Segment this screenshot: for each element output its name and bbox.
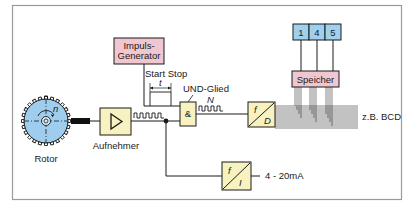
rotor-label: Rotor <box>34 153 57 164</box>
rotor-speed-symbol: n <box>53 103 58 114</box>
and-symbol: & <box>185 108 192 119</box>
fi-i: I <box>239 177 242 188</box>
und-glied-block: & <box>180 102 196 126</box>
digital-display: 1 4 5 <box>293 24 341 40</box>
n-label: N <box>207 94 214 105</box>
t-label: t <box>159 77 162 88</box>
block-diagram: n Rotor Aufnehmer Impuls- Generator Star… <box>0 0 412 211</box>
display-digit-3: 5 <box>330 27 335 38</box>
speicher-block: Speicher <box>292 71 339 87</box>
speicher-label: Speicher <box>297 74 335 85</box>
start-stop-label: Start Stop <box>145 68 187 79</box>
impuls-generator-label-2: Generator <box>118 50 161 61</box>
f-to-i-converter: f I <box>222 162 251 190</box>
impuls-generator-label-1: Impuls- <box>123 40 154 51</box>
und-glied-label: UND-Glied <box>183 83 229 94</box>
display-digit-1: 1 <box>298 27 303 38</box>
impuls-generator-block: Impuls- Generator <box>114 38 164 64</box>
current-output-label: 4 - 20mA <box>265 170 304 181</box>
rotor-gear-icon: n <box>22 96 71 146</box>
display-digit-2: 4 <box>314 27 319 38</box>
bcd-output-label: z.B. BCD <box>362 111 401 122</box>
f-to-d-converter: f D <box>248 102 275 127</box>
sensor-head <box>71 118 90 124</box>
fd-d: D <box>264 115 271 126</box>
aufnehmer-label: Aufnehmer <box>93 140 139 151</box>
